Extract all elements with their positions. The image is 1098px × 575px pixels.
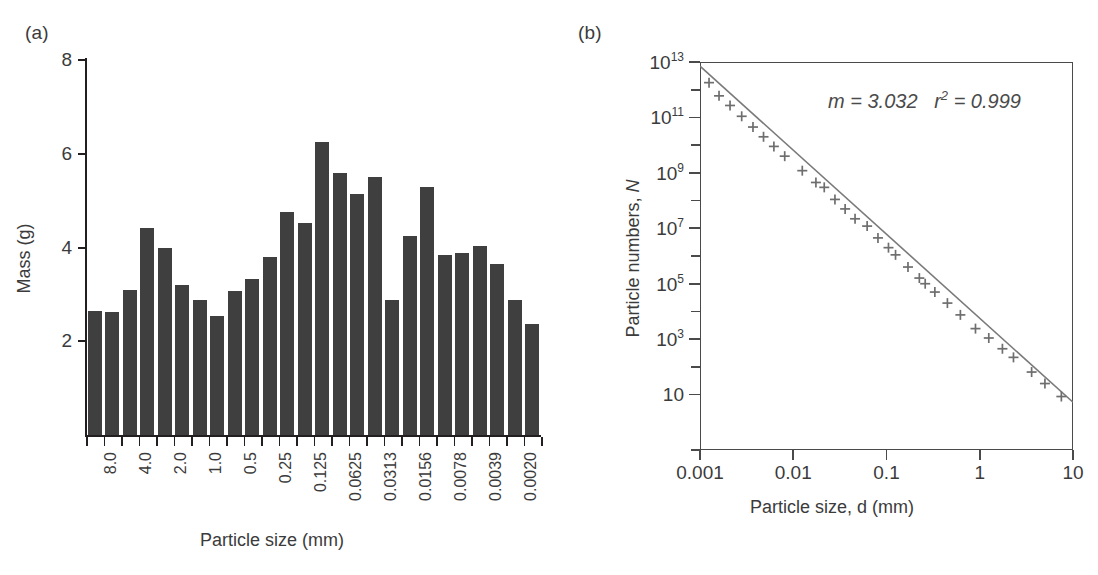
panel-a-x-tick <box>419 437 421 446</box>
panel-a-x-tick <box>454 437 456 446</box>
panel-a-x-tick <box>314 437 316 446</box>
bar <box>140 228 154 435</box>
panel-b-y-tick <box>689 172 700 174</box>
data-point-plus-marker <box>769 141 779 151</box>
panel-b-x-tick-label: 0.1 <box>873 462 899 484</box>
bar <box>490 264 504 435</box>
panel-b-x-tick-label: 0.01 <box>775 462 812 484</box>
bar <box>123 290 137 435</box>
panel-a-x-tick <box>436 437 438 446</box>
panel-a-x-tick-label: 0.5 <box>242 452 260 474</box>
data-point-plus-marker <box>850 214 860 224</box>
panel-a-y-tick-label: 8 <box>44 49 72 71</box>
data-point-plus-marker <box>970 324 980 334</box>
panel-a-x-tick <box>349 437 351 446</box>
panel-a-x-tick <box>209 437 211 446</box>
panel-a-x-tick-label: 0.25 <box>277 452 295 483</box>
panel-b-y-tick-minor <box>691 366 700 368</box>
panel-b-y-tick <box>689 61 700 63</box>
data-point-plus-marker <box>883 243 893 253</box>
data-point-plus-marker <box>914 273 924 283</box>
data-point-plus-marker <box>903 262 913 272</box>
panel-b-y-axis-title: Particle numbers, N <box>623 144 644 374</box>
panel-a-x-tick <box>296 437 298 446</box>
panel-b-y-tick-minor <box>691 200 700 202</box>
data-point-plus-marker <box>797 166 807 176</box>
bar <box>245 279 259 435</box>
data-point-plus-marker <box>780 151 790 161</box>
panel-b-data-layer <box>700 62 1073 450</box>
bar <box>368 177 382 435</box>
data-point-plus-marker <box>997 344 1007 354</box>
bar <box>473 246 487 435</box>
bar <box>210 316 224 435</box>
panel-b-x-tick <box>979 450 981 460</box>
panel-b-loglog-plot: (b) 1010310510710910111013 0.0010.010.11… <box>560 0 1098 575</box>
panel-b-x-tick <box>1072 450 1074 460</box>
data-point-plus-marker <box>955 310 965 320</box>
data-point-plus-marker <box>1056 392 1066 402</box>
panel-b-y-tick <box>689 394 700 396</box>
panel-b-y-tick <box>689 117 700 119</box>
panel-a-x-tick <box>384 437 386 446</box>
bar <box>175 285 189 435</box>
panel-b-y-tick-minor <box>691 144 700 146</box>
panel-a-x-tick-label: 0.0039 <box>487 452 505 501</box>
data-point-plus-marker <box>714 91 724 101</box>
panel-a-x-tick <box>121 437 123 446</box>
bar <box>298 223 312 435</box>
panel-b-y-tick-label: 10 <box>560 384 684 406</box>
data-point-plus-marker <box>873 233 883 243</box>
panel-a-x-tick <box>331 437 333 446</box>
data-point-plus-marker <box>819 182 829 192</box>
data-point-plus-marker <box>759 132 769 142</box>
bar <box>403 236 417 435</box>
data-point-plus-marker <box>704 78 714 88</box>
panel-b-y-tick-label: 1013 <box>560 50 684 73</box>
data-point-plus-marker <box>891 250 901 260</box>
data-point-plus-marker <box>1008 352 1018 362</box>
panel-a-x-tick-label: 0.125 <box>312 452 330 492</box>
panel-b-y-tick <box>689 283 700 285</box>
panel-b-fit-annotation: m = 3.032 r2 = 0.999 <box>828 88 1021 113</box>
panel-a-y-tick-label: 4 <box>44 237 72 259</box>
panel-a-x-tick <box>104 437 106 446</box>
panel-a-y-tick <box>78 153 86 155</box>
panel-a-x-tick <box>524 437 526 446</box>
panel-a-x-tick <box>261 437 263 446</box>
panel-b-fit-line <box>700 66 1073 402</box>
panel-b-y-tick <box>689 338 700 340</box>
panel-a-y-axis-title: Mass (g) <box>14 189 35 329</box>
panel-a-letter: (a) <box>25 22 49 44</box>
panel-b-data-points <box>704 78 1066 402</box>
bar <box>228 291 242 435</box>
panel-a-x-tick <box>541 437 543 446</box>
fit-line <box>700 66 1073 402</box>
bar <box>385 300 399 435</box>
data-point-plus-marker <box>930 287 940 297</box>
panel-b-y-tick-minor <box>691 89 700 91</box>
data-point-plus-marker <box>725 100 735 110</box>
data-point-plus-marker <box>942 298 952 308</box>
panel-b-y-tick-label: 1011 <box>560 106 684 129</box>
panel-a-x-tick <box>86 437 88 446</box>
panel-b-x-tick <box>886 450 888 460</box>
panel-b-x-axis-title: Particle size, d (mm) <box>750 497 914 518</box>
panel-a-x-tick-label: 1.0 <box>207 452 225 474</box>
panel-b-x-tick <box>792 450 794 460</box>
panel-a-x-tick <box>366 437 368 446</box>
panel-b-y-tick <box>689 227 700 229</box>
bar <box>420 187 434 435</box>
data-point-plus-marker <box>920 279 930 289</box>
panel-b-x-tick-label: 10 <box>1062 462 1083 484</box>
panel-b-x-tick-label: 1 <box>974 462 985 484</box>
panel-a-x-tick-label: 0.0020 <box>522 452 540 501</box>
panel-b-letter: (b) <box>578 22 602 44</box>
panel-a-x-tick-label: 0.0078 <box>452 452 470 501</box>
panel-b-x-tick <box>699 450 701 460</box>
panel-a-bar-chart: (a) 8642 8.04.02.01.00.50.250.1250.06250… <box>0 0 560 575</box>
data-point-plus-marker <box>737 111 747 121</box>
data-point-plus-marker <box>984 333 994 343</box>
panel-a-y-tick-label: 2 <box>44 330 72 352</box>
bar <box>333 173 347 436</box>
